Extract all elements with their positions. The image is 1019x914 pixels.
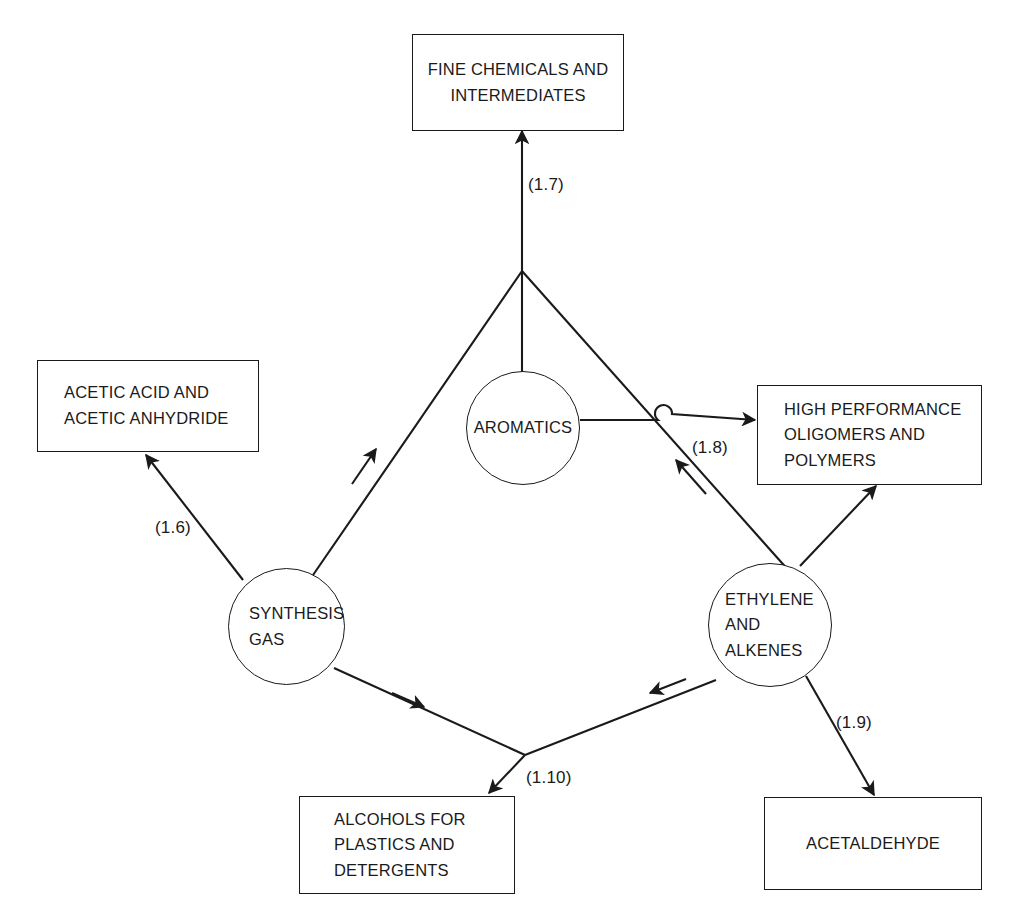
node-aromatics[interactable]: AROMATICS [466,371,580,485]
node-alcohols-line-3: DETERGENTS [334,858,449,884]
edge-ethylene-to-acetaldehyde [806,676,874,795]
arrow-ethylene-to-junction [650,679,686,693]
node-high-performance-polymers[interactable]: HIGH PERFORMANCE OLIGOMERS AND POLYMERS [757,385,982,485]
node-acetic-acid-line-2: ACETIC ANHYDRIDE [64,406,229,432]
node-high-performance-line-2: OLIGOMERS AND [784,422,925,448]
node-alcohols[interactable]: ALCOHOLS FOR PLASTICS AND DETERGENTS [299,796,515,894]
process-flow-diagram: FINE CHEMICALS AND INTERMEDIATES ACETIC … [0,0,1019,914]
node-ethylene-line-1: ETHYLENE [725,587,814,613]
edge-synthesis-gas-to-junction [334,668,525,755]
node-acetic-acid-line-1: ACETIC ACID AND [64,380,209,406]
edge-label-alcohols: (1.10) [526,768,572,788]
arrow-ethylene-to-apex [676,460,706,494]
node-ethylene-line-2: AND [725,612,760,638]
edge-aromatics-to-high-performance [580,405,755,420]
edge-label-fine-chemicals: (1.7) [528,175,564,195]
node-synthesis-gas-line-1: SYNTHESIS [249,601,344,627]
node-fine-chemicals-line-1: FINE CHEMICALS AND [428,57,609,83]
edge-label-acetaldehyde: (1.9) [836,713,872,733]
node-acetaldehyde[interactable]: ACETALDEHYDE [764,797,982,890]
node-high-performance-line-1: HIGH PERFORMANCE [784,397,961,423]
arrow-synthesis-gas-to-apex [352,449,376,484]
node-synthesis-gas[interactable]: SYNTHESIS GAS [228,568,345,685]
node-acetaldehyde-line-1: ACETALDEHYDE [806,831,940,857]
edge-ethylene-to-junction [525,680,716,755]
edge-junction-to-alcohols [489,755,525,793]
arrow-synthesis-gas-to-junction [392,693,424,707]
node-alcohols-line-2: PLASTICS AND [334,832,455,858]
edge-label-acetic-acid: (1.6) [155,518,191,538]
node-high-performance-line-3: POLYMERS [784,448,876,474]
edge-label-high-performance: (1.8) [692,438,728,458]
node-ethylene-alkenes[interactable]: ETHYLENE AND ALKENES [708,563,832,687]
node-acetic-acid[interactable]: ACETIC ACID AND ACETIC ANHYDRIDE [37,360,259,452]
node-synthesis-gas-line-2: GAS [249,627,284,653]
node-fine-chemicals[interactable]: FINE CHEMICALS AND INTERMEDIATES [412,34,624,131]
node-aromatics-label: AROMATICS [474,415,573,441]
node-ethylene-line-3: ALKENES [725,638,803,664]
node-fine-chemicals-line-2: INTERMEDIATES [450,83,585,109]
edge-ethylene-to-high-performance [800,486,876,566]
node-alcohols-line-1: ALCOHOLS FOR [334,807,466,833]
